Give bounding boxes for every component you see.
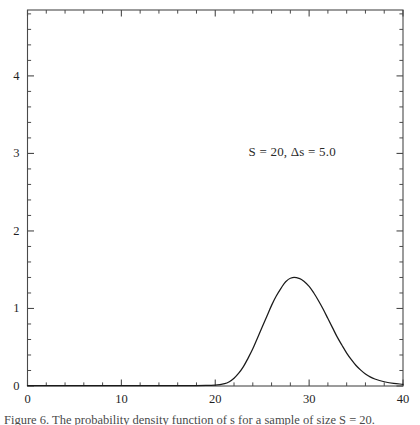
x-tick-label-10: 10 [115,393,128,406]
plot-canvas [0,0,420,425]
axis-ticks [28,10,404,386]
y-tick-label-4: 4 [0,70,20,83]
figure-container: S = 20, Δs = 5.0 01234 010203040 Figure … [0,0,420,425]
x-tick-label-40: 40 [397,393,410,406]
x-tick-label-0: 0 [24,393,30,406]
y-tick-label-0: 0 [0,380,20,393]
y-tick-label-3: 3 [0,147,20,160]
x-tick-label-20: 20 [209,393,222,406]
plot-frame [28,10,404,386]
chart-annotation: S = 20, Δs = 5.0 [249,144,336,160]
figure-caption: Figure 6. The probability density functi… [4,414,416,425]
y-tick-label-2: 2 [0,225,20,238]
data-curve [28,277,404,385]
x-tick-label-30: 30 [303,393,316,406]
y-tick-label-1: 1 [0,302,20,315]
